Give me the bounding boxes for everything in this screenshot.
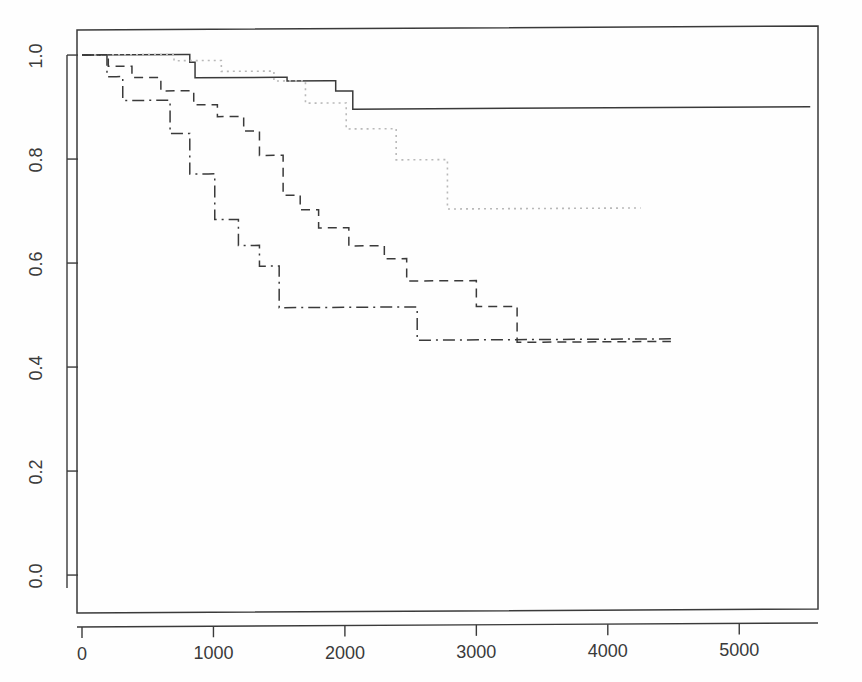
x-tick-label-1000: 1000 <box>193 643 233 663</box>
scan-skew-wrapper <box>67 26 818 638</box>
y-tick-label-0.8: 0.8 <box>26 148 46 173</box>
plot-canvas: 010002000300040005000 0.00.20.40.60.81.0 <box>0 0 862 682</box>
survival-curve-group-4 <box>82 55 671 340</box>
y-tick-label-0.0: 0.0 <box>26 564 46 589</box>
x-axis-tick-labels: 010002000300040005000 <box>77 640 759 664</box>
survival-curve-group-2 <box>82 54 641 209</box>
y-axis-tick-labels: 0.00.20.40.60.81.0 <box>26 44 46 589</box>
y-tick-label-0.2: 0.2 <box>26 460 46 485</box>
x-tick-label-2000: 2000 <box>325 643 365 663</box>
y-tick-label-0.4: 0.4 <box>26 356 46 381</box>
x-tick-label-3000: 3000 <box>456 642 496 662</box>
plot-box-border <box>77 26 818 613</box>
x-tick-label-5000: 5000 <box>719 640 759 660</box>
x-axis-rule <box>77 623 818 627</box>
survival-curve-group-1 <box>82 54 810 109</box>
survival-curves <box>82 54 810 342</box>
plot-frame <box>77 26 818 613</box>
x-tick-label-0: 0 <box>77 644 87 664</box>
survival-curve-group-3 <box>82 55 671 342</box>
y-tick-label-1.0: 1.0 <box>26 44 46 69</box>
y-tick-label-0.6: 0.6 <box>26 252 46 277</box>
x-tick-label-4000: 4000 <box>588 641 628 661</box>
survival-plot-figure: 010002000300040005000 0.00.20.40.60.81.0 <box>0 0 862 682</box>
x-axis-line <box>77 623 818 627</box>
